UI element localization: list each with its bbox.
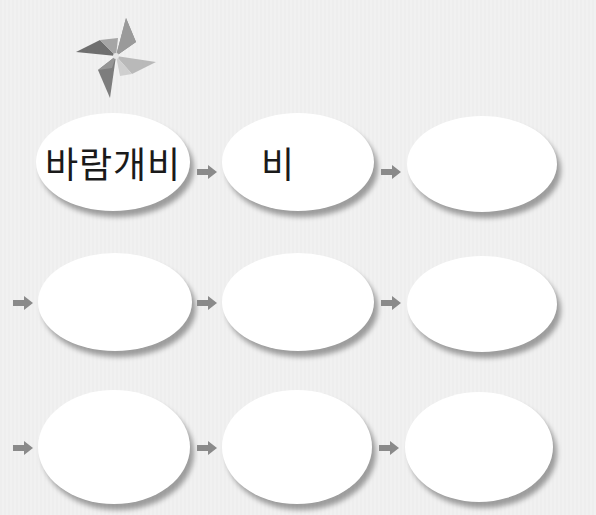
arrow-right-icon: [381, 165, 401, 179]
flow-node-r2c3: [407, 256, 557, 352]
arrow-right-icon: [381, 296, 401, 310]
flow-node-r2c1: [38, 253, 192, 351]
node-label: 비: [261, 136, 295, 188]
arrow-right-icon: [197, 296, 217, 310]
arrow-right-icon: [13, 296, 33, 310]
pinwheel-icon: [70, 10, 162, 102]
flow-node-r3c3: [405, 392, 553, 502]
arrow-right-icon: [379, 441, 399, 455]
flow-node-r3c1: [38, 390, 190, 504]
arrow-right-icon: [197, 165, 217, 179]
node-label: 바람개비: [45, 136, 181, 188]
flow-node-r1c3: [407, 116, 557, 212]
flow-node-r3c2: [222, 390, 372, 504]
diagram-canvas: 바람개비 비: [0, 0, 596, 515]
flow-node-r2c2: [222, 253, 374, 351]
flow-node-r1c1: 바람개비: [36, 113, 190, 211]
arrow-right-icon: [197, 441, 217, 455]
arrow-right-icon: [13, 441, 33, 455]
flow-node-r1c2: 비: [222, 113, 374, 211]
